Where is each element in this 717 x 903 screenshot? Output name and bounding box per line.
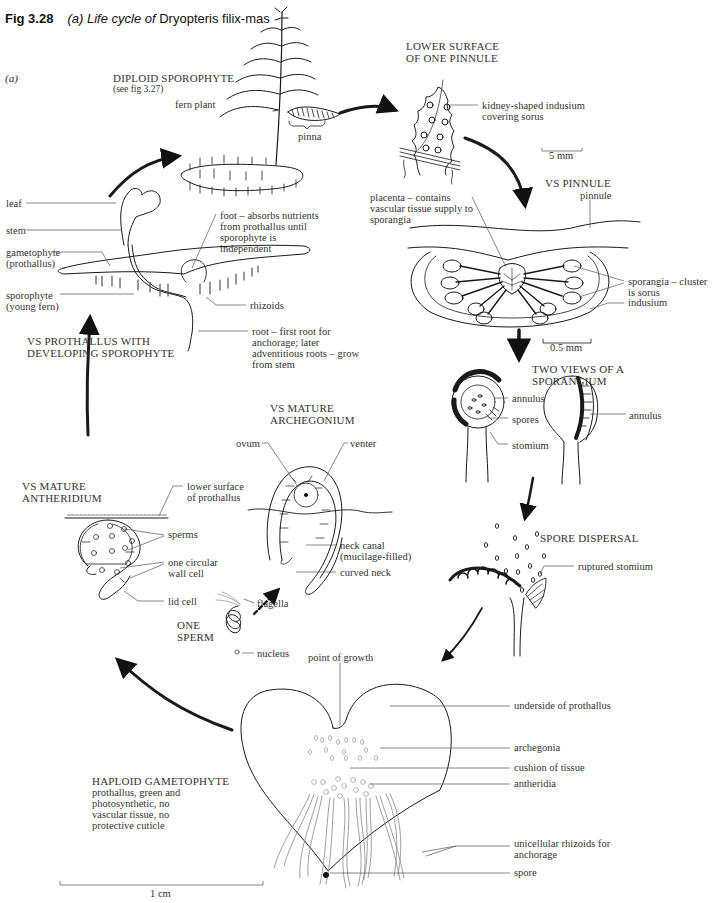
scale-1cm: 1 cm: [150, 888, 171, 899]
label-sporangia-cluster: sporangia – cluster is sorus: [628, 276, 707, 298]
label-lower-surface-of-prothallus: lower surface of prothallus: [187, 481, 244, 503]
label-venter: venter: [350, 438, 376, 449]
label-lid-cell: lid cell: [168, 596, 197, 607]
sporangium-drawings: [452, 372, 598, 484]
label-leaf: leaf: [6, 198, 22, 209]
label-flagella: flagella: [257, 598, 288, 609]
label-curved-neck: curved neck: [340, 567, 391, 578]
label-fern-plant: fern plant: [175, 99, 216, 110]
stage-heading-diploid-sporophyte: DIPLOID SPOROPHYTE: [113, 72, 234, 84]
figure-title-italic: (a) Life cycle of: [67, 11, 155, 26]
gametophyte-drawing: [241, 663, 451, 888]
sperm-drawing: [216, 592, 241, 654]
label-unicellular-rhizoids: unicellular rhizoids for anchorage: [514, 838, 610, 860]
label-one-circular-wall-cell: one circular wall cell: [168, 557, 218, 579]
label-ovum: ovum: [236, 438, 260, 449]
label-annulus-side: annulus: [629, 410, 662, 421]
label-gametophyte-prothallus: gametophyte (prothallus): [6, 247, 60, 269]
label-indusium: indusium: [628, 297, 667, 308]
label-stem: stem: [6, 225, 26, 236]
label-stomium: stomium: [512, 440, 549, 451]
scale-0-5mm: 0.5 mm: [550, 342, 582, 353]
label-annulus-front: annulus: [512, 393, 545, 404]
label-neck-canal: neck canal (mucilage-filled): [340, 540, 411, 562]
stage-heading-one-sperm: ONE SPERM: [177, 619, 214, 643]
label-cushion-of-tissue: cushion of tissue: [514, 762, 585, 773]
stage-heading-sporangium: TWO VIEWS OF A SPORANGIUM: [532, 363, 624, 387]
label-spore: spore: [514, 867, 537, 878]
label-nucleus: nucleus: [257, 648, 289, 659]
stage-heading-haploid-gametophyte: HAPLOID GAMETOPHYTE: [92, 775, 229, 787]
stage-heading-spore-dispersal: SPORE DISPERSAL: [540, 532, 639, 544]
label-pinna: pinna: [298, 131, 321, 142]
label-root: root – first root for anchorage; later a…: [252, 326, 359, 370]
label-placenta: placenta – contains vascular tissue supp…: [370, 192, 473, 225]
label-sperms: sperms: [168, 529, 198, 540]
label-point-of-growth: point of growth: [308, 652, 373, 663]
gametophyte-description: prothallus, green and photosynthetic, no…: [92, 787, 180, 831]
stage-heading-antheridium: VS MATURE ANTHERIDIUM: [22, 480, 102, 504]
scale-5mm: 5 mm: [549, 150, 573, 161]
label-ruptured-stomium: ruptured stomium: [578, 561, 653, 572]
pinnule-drawing: [400, 80, 460, 184]
stage-heading-lower-surface: LOWER SURFACE OF ONE PINNULE: [406, 40, 499, 64]
figure-title: Fig 3.28(a) Life cycle of Dryopteris fil…: [5, 11, 270, 26]
label-sporophyte-young-fern: sporophyte (young fern): [6, 290, 59, 312]
label-antheridia: antheridia: [514, 778, 556, 789]
life-cycle-figure: Fig 3.28(a) Life cycle of Dryopteris fil…: [0, 0, 717, 903]
label-pinnule: pinnule: [580, 190, 612, 201]
diagram-artwork: [0, 0, 717, 903]
antheridium-drawing: [65, 515, 168, 599]
vs-pinnule-drawing: [408, 221, 640, 343]
stage-heading-archegonium: VS MATURE ARCHEGONIUM: [270, 402, 355, 426]
label-spores: spores: [512, 414, 539, 425]
figure-number: Fig 3.28: [5, 11, 53, 26]
diploid-sporophyte-note: (see fig 3.27): [113, 84, 163, 95]
label-kidney-shaped-indusium: kidney-shaped indusium covering sorus: [482, 100, 585, 122]
panel-label: (a): [5, 72, 18, 84]
stage-heading-prothallus-sporophyte: VS PROTHALLUS WITH DEVELOPING SPOROPHYTE: [27, 335, 175, 359]
label-foot: foot – absorbs nutrients from prothallus…: [220, 210, 319, 254]
figure-species: Dryopteris filix-mas: [159, 11, 270, 26]
label-underside-of-prothallus: underside of prothallus: [514, 700, 611, 711]
label-rhizoids: rhizoids: [250, 300, 284, 311]
stage-heading-vs-pinnule: VS PINNULE: [545, 177, 611, 189]
label-archegonia: archegonia: [514, 742, 560, 753]
